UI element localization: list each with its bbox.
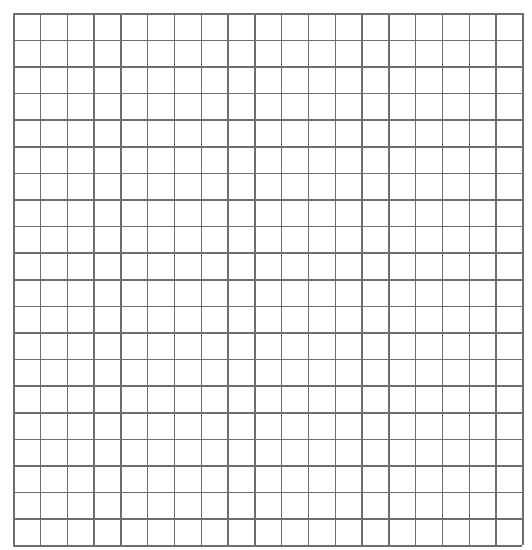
grid-right-edge xyxy=(522,13,524,545)
grid-bottom-edge xyxy=(13,545,522,547)
page-canvas xyxy=(0,0,532,550)
graph-paper-grid[interactable] xyxy=(13,13,522,545)
grid-lines-overlay xyxy=(13,13,522,545)
